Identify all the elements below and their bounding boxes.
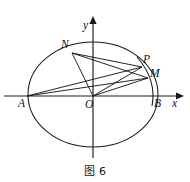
ellipse-diagram bbox=[0, 0, 190, 182]
figure-caption: 图 6 bbox=[0, 162, 190, 178]
point-label-P: P bbox=[143, 54, 150, 66]
point-label-B: B bbox=[154, 98, 161, 110]
x-axis-arrowhead bbox=[176, 92, 184, 99]
segment-O-M bbox=[93, 78, 148, 96]
point-label-O: O bbox=[85, 99, 93, 111]
x-axis-label: x bbox=[172, 98, 177, 110]
point-label-M: M bbox=[150, 68, 160, 80]
segment-O-P bbox=[93, 67, 142, 96]
y-axis-label: y bbox=[83, 20, 88, 32]
figure-container: A B O N P M x y 图 6 bbox=[0, 0, 190, 182]
point-label-A: A bbox=[18, 98, 25, 110]
point-label-N: N bbox=[61, 39, 69, 51]
y-axis-arrowhead bbox=[89, 16, 96, 24]
segment-N-O bbox=[72, 53, 93, 96]
